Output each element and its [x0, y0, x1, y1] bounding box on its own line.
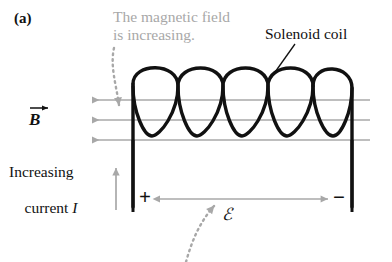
- current-symbol: I: [72, 199, 77, 216]
- current-word: current I: [25, 199, 78, 216]
- coil-turn-2: [178, 68, 223, 136]
- physics-figure-solenoid: (a) The magnetic field is increasing. So…: [0, 0, 392, 262]
- emf-pointer: [186, 206, 214, 262]
- increasing-current-note-line2: current I: [9, 182, 77, 234]
- emf-symbol: ℰ: [222, 205, 232, 224]
- coil-turn-5-back: [313, 86, 352, 136]
- solenoid-coil-label: Solenoid coil: [265, 25, 347, 42]
- magnetic-field-note-line2: is increasing.: [113, 26, 195, 43]
- b-field-symbol: B: [29, 110, 40, 129]
- increasing-current-note-line1: Increasing: [9, 163, 74, 180]
- solenoid-leader-line: [268, 44, 295, 82]
- terminal-leads: [133, 140, 352, 212]
- magnetic-field-note-line1: The magnetic field: [113, 8, 230, 25]
- coil-turn-1: [133, 68, 178, 136]
- coil-turn-3: [223, 68, 268, 136]
- solenoid-coil: [133, 68, 352, 207]
- negative-terminal-label: −: [333, 186, 345, 210]
- panel-label: (a): [14, 10, 32, 27]
- coil-turn-4: [268, 68, 313, 136]
- positive-terminal-label: +: [139, 186, 151, 210]
- magnetic-field-pointer: [113, 48, 119, 105]
